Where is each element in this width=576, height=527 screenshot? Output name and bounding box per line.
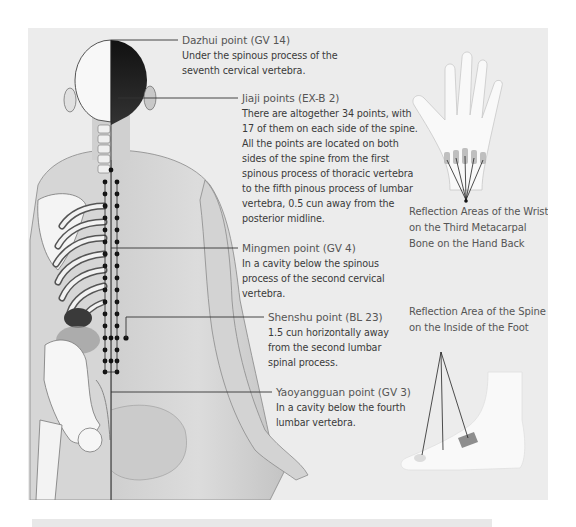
next-panel-strip	[32, 519, 492, 527]
head	[64, 40, 156, 125]
annotation-desc: Under the spinous process of the seventh…	[182, 48, 362, 78]
annotation-desc: 1.5 cun horizontally away from the secon…	[268, 325, 408, 370]
annotation-desc: In a cavity below the spinous process of…	[242, 256, 407, 301]
foot-inset	[401, 352, 525, 470]
annotation-jiaji: Jiaji points (EX-B 2) There are altogeth…	[242, 90, 422, 226]
annotation-yaoyangguan: Yaoyangguan point (GV 3) In a cavity bel…	[276, 384, 416, 430]
annotation-mingmen: Mingmen point (GV 4) In a cavity below t…	[242, 240, 407, 301]
annotation-desc: In a cavity below the fourth lumbar vert…	[276, 400, 416, 430]
figure-panel: Dazhui point (GV 14) Under the spinous p…	[28, 28, 548, 500]
annotation-title: Dazhui point (GV 14)	[182, 32, 362, 48]
annotation-desc: There are altogether 34 points, with 17 …	[242, 106, 422, 226]
annotation-title: Jiaji points (EX-B 2)	[242, 90, 422, 106]
caption-text: Reflection Area of the Spine on the Insi…	[409, 304, 548, 336]
caption-hand-inset: Reflection Areas of the Wrist on the Thi…	[409, 204, 548, 252]
annotation-shenshu: Shenshu point (BL 23) 1.5 cun horizontal…	[268, 309, 408, 370]
caption-foot-inset: Reflection Area of the Spine on the Insi…	[409, 304, 548, 336]
annotation-title: Mingmen point (GV 4)	[242, 240, 407, 256]
annotation-title: Yaoyangguan point (GV 3)	[276, 384, 416, 400]
hand-inset	[413, 52, 502, 203]
annotation-title: Shenshu point (BL 23)	[268, 309, 408, 325]
caption-text: Reflection Areas of the Wrist on the Thi…	[409, 204, 548, 252]
annotation-dazhui: Dazhui point (GV 14) Under the spinous p…	[182, 32, 362, 78]
